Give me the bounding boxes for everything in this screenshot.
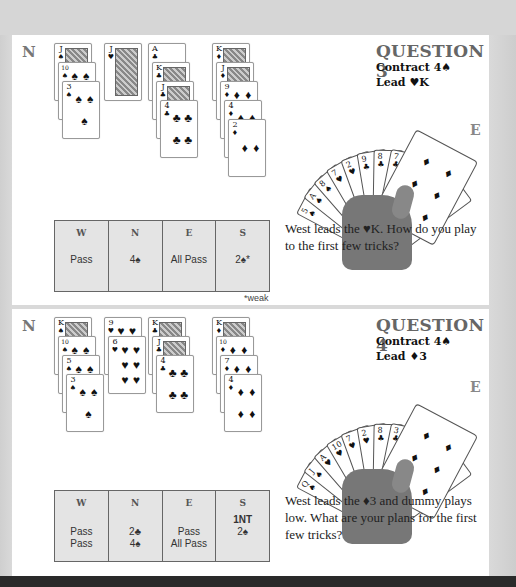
card-index: 10♦ [219, 338, 227, 354]
card-index: J♥ [107, 45, 115, 61]
card-index: 6♥ [111, 338, 119, 354]
playing-card: 4♣♣♣♣♣ [156, 355, 194, 413]
playing-card: 2♦♦♦ [228, 119, 266, 177]
card-pips: ♦♦♦♦ [235, 381, 258, 425]
seat-header: N [109, 498, 162, 512]
east-hand-fan: 5 ♠A ♠8 ♠7 ♥2 ♥9 ♣8 ♣7 ♣3 ♣9 ♦8 ♦7 ♦♦♦♦♦… [312, 90, 462, 240]
seat-header: W [55, 498, 108, 512]
card-index: 3♠ [65, 83, 73, 99]
auction-table: W PassPassN 2♣4♠E PassAll PassS1NT2♠ [54, 490, 270, 562]
auction-column-s: S1NT2♠ [216, 491, 269, 561]
auction-column-n: N4♠ [109, 221, 163, 291]
card-index: J♠ [57, 45, 65, 61]
card-pips: ♠♠♠ [77, 381, 100, 425]
card-index: 9♦ [223, 83, 231, 99]
card-index: 10♠ [61, 64, 69, 80]
question-3-panel: N J♠10♠♠♠♠♠♠♠3♠♠♠♠J♥A♣♣K♣J♣4♣♣♣♣♣K♦J♦9♦♦… [12, 35, 489, 305]
north-label: N [22, 43, 36, 61]
east-label: E [470, 122, 481, 138]
bid: 2♠* [216, 254, 269, 266]
card-index: A♣ [151, 45, 159, 61]
east-label: E [470, 379, 481, 395]
card-index: 3♠ [69, 376, 77, 392]
bid: 4♠ [109, 538, 162, 550]
bid: Pass [55, 526, 108, 538]
card-index: K♣ [151, 319, 159, 335]
lead-label: Lead ♥K [376, 76, 429, 89]
auction-footnote: *weak [244, 293, 269, 303]
card-pips: ♠♠♠ [73, 88, 96, 132]
card-index: K♦ [215, 319, 223, 335]
playing-card: J♥ [104, 43, 142, 101]
auction-column-w: WPass [55, 221, 109, 291]
court-card-art [115, 48, 138, 96]
card-index: K♠ [57, 319, 65, 335]
seat-header: S [216, 498, 269, 512]
card-pips: ♣♣♣♣ [167, 362, 190, 406]
contract-label: Contract 4♠ [376, 335, 451, 348]
card-index: 5♠ [65, 357, 73, 373]
auction-column-w: W PassPass [55, 491, 109, 561]
playing-card: 3♠♠♠♠ [66, 374, 104, 432]
seat-header: W [55, 228, 108, 242]
playing-card: 6♥♥♥♥♥♥♥ [108, 336, 146, 394]
seat-header: N [109, 228, 162, 242]
bid: 2♣ [109, 526, 162, 538]
auction-column-n: N 2♣4♠ [109, 491, 163, 561]
seat-header: E [163, 228, 216, 242]
card-index: J♣ [155, 338, 163, 354]
card-index: 10♠ [61, 338, 69, 354]
question-4-panel: N K♠10♠♠♠♠♠♠♠5♠♠♠♠♠♠3♠♠♠♠9♥♥♥♥♥♥♥6♥♥♥♥♥♥… [12, 309, 489, 576]
question-text: West leads the ♦3 and dummy plays low. W… [285, 492, 485, 543]
auction-column-e: EAll Pass [163, 221, 217, 291]
bid [109, 514, 162, 526]
top-band [0, 0, 516, 35]
seat-header: S [216, 228, 269, 242]
bid: All Pass [163, 254, 216, 266]
bid: 4♠ [109, 254, 162, 266]
card-index: K♣ [155, 64, 163, 80]
bid: Pass [55, 538, 108, 550]
question-text: West leads the ♥K. How do you play to th… [285, 220, 485, 254]
playing-card: 3♠♠♠♠ [62, 81, 100, 139]
card-index: 4♦ [227, 102, 235, 118]
bid: 1NT [216, 514, 269, 526]
bottom-band [0, 576, 516, 587]
auction-table: WPassN4♠EAll PassS2♠* [54, 220, 270, 292]
playing-card: 4♦♦♦♦♦ [224, 374, 262, 432]
auction-column-e: E PassAll Pass [163, 491, 217, 561]
card-index: K♦ [215, 45, 223, 61]
card-pips: ♥♥♥♥♥♥ [119, 343, 142, 387]
card-index: 2♦ [231, 121, 239, 137]
contract-label: Contract 4♠ [376, 61, 451, 74]
bid: Pass [55, 254, 108, 266]
bid: 2♠ [216, 526, 269, 538]
playing-card: 4♣♣♣♣♣ [160, 100, 198, 158]
card-index: 4♣ [163, 102, 171, 118]
card-pips: ♣♣♣♣ [171, 107, 194, 151]
bid [163, 514, 216, 526]
lead-label: Lead ♦3 [376, 350, 427, 363]
bid [55, 514, 108, 526]
bid: Pass [163, 526, 216, 538]
card-index: 4♣ [159, 357, 167, 373]
card-pips: ♦♦ [239, 126, 262, 170]
card-index: J♣ [159, 83, 167, 99]
north-label: N [22, 317, 36, 335]
auction-column-s: S2♠* [216, 221, 269, 291]
card-index: 4♦ [227, 376, 235, 392]
card-index: 9♥ [107, 319, 115, 335]
seat-header: E [163, 498, 216, 512]
card-index: 7♦ [223, 357, 231, 373]
bid [216, 538, 269, 550]
bid: All Pass [163, 538, 216, 550]
card-index: J♦ [219, 64, 227, 80]
